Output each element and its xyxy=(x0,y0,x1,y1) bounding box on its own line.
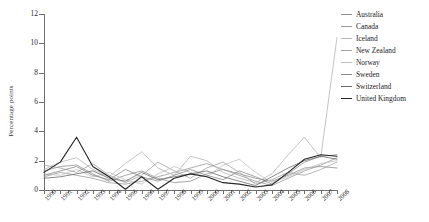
x-axis-tick-label: 2008 xyxy=(336,188,350,202)
y-axis-tick-label: 6 xyxy=(8,97,38,106)
legend-swatch-icon xyxy=(341,50,352,51)
legend: AustraliaCanadaIcelandNew ZealandNorwayS… xyxy=(341,8,429,105)
legend-item: New Zealand xyxy=(341,44,429,56)
legend-item: Canada xyxy=(341,20,429,32)
y-axis-tick-label: 4 xyxy=(8,126,38,135)
x-axis-tick xyxy=(256,190,257,194)
legend-item-label: Sweden xyxy=(356,70,379,79)
legend-item: United Kingdom xyxy=(341,93,429,105)
legend-item-label: Norway xyxy=(356,58,380,67)
series-lines xyxy=(44,14,337,190)
y-axis-tick-label: 8 xyxy=(8,68,38,77)
legend-item: Australia xyxy=(341,8,429,20)
y-axis-tick-label: 12 xyxy=(8,9,38,18)
y-axis-tick-labels: 024681012 xyxy=(4,0,38,222)
line-chart: Percentage points 024681012 199019911992… xyxy=(0,0,429,222)
legend-item-label: United Kingdom xyxy=(356,94,406,103)
legend-item: Switzerland xyxy=(341,81,429,93)
y-axis-tick-label: 2 xyxy=(8,156,38,165)
x-axis-tick xyxy=(321,190,322,194)
legend-swatch-icon xyxy=(341,38,352,39)
legend-item-label: Switzerland xyxy=(356,82,391,91)
x-axis-tick xyxy=(77,190,78,194)
legend-item-label: Australia xyxy=(356,10,383,19)
plot-area xyxy=(44,14,337,190)
legend-item-label: Iceland xyxy=(356,34,378,43)
legend-item: Norway xyxy=(341,56,429,68)
series-line xyxy=(44,155,337,184)
legend-item-label: New Zealand xyxy=(356,46,396,55)
legend-swatch-icon xyxy=(341,62,352,63)
legend-swatch-icon xyxy=(341,86,352,87)
legend-swatch-icon xyxy=(341,98,352,99)
x-axis-tick xyxy=(142,190,143,194)
legend-item-label: Canada xyxy=(356,22,378,31)
legend-item: Sweden xyxy=(341,68,429,80)
y-axis-tick-label: 10 xyxy=(8,38,38,47)
legend-item: Iceland xyxy=(341,32,429,44)
legend-swatch-icon xyxy=(341,74,352,75)
x-axis-tick xyxy=(191,190,192,194)
series-line xyxy=(44,37,337,182)
y-axis-tick-label: 0 xyxy=(8,185,38,194)
legend-swatch-icon xyxy=(341,26,352,27)
x-axis-tick xyxy=(207,190,208,194)
legend-swatch-icon xyxy=(341,14,352,15)
